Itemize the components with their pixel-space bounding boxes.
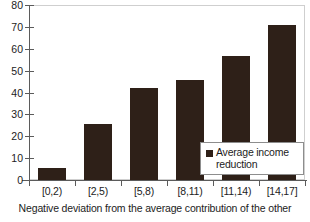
x-axis-line <box>22 180 307 181</box>
legend-swatch-icon <box>206 150 213 157</box>
y-axis-tick-label: 40 <box>0 88 23 99</box>
y-axis-tick <box>25 5 34 6</box>
legend-label: Average incomereduction <box>216 146 302 170</box>
y-axis-tick-label: 70 <box>0 22 23 33</box>
bar <box>130 88 158 180</box>
y-axis-tick-label: 60 <box>0 44 23 55</box>
y-axis-tick <box>25 158 34 159</box>
y-axis-tick <box>25 136 34 137</box>
x-axis-tick-label: [2,5) <box>75 186 121 197</box>
y-axis-tick <box>25 49 34 50</box>
figure-caption: Negative deviation from the average cont… <box>0 203 310 214</box>
bar-chart-figure: 80706050403020100 [0,2)[2,5)[5,8)[8,11)[… <box>0 0 310 222</box>
y-axis-tick-label: 10 <box>0 153 23 164</box>
y-axis-tick <box>25 71 34 72</box>
legend-label-line1: Average income <box>216 146 302 158</box>
x-axis-tick-label: [5,8) <box>121 186 167 197</box>
y-axis-tick <box>25 93 34 94</box>
x-axis-tick <box>305 181 306 186</box>
x-axis-tick-label: [0,2) <box>29 186 75 197</box>
bar <box>38 168 66 180</box>
x-axis-tick-label: [14,17] <box>259 186 305 197</box>
x-axis-tick-label: [11,14) <box>213 186 259 197</box>
legend-label-line2: reduction <box>216 158 302 170</box>
x-axis-tick-label: [8,11) <box>167 186 213 197</box>
y-axis-tick <box>25 27 34 28</box>
y-axis-tick-label: 50 <box>0 66 23 77</box>
y-axis-tick <box>25 114 34 115</box>
chart-legend: Average incomereduction <box>200 142 304 175</box>
y-axis-tick-label: 0 <box>0 175 23 186</box>
y-axis-tick-label: 20 <box>0 131 23 142</box>
bar <box>84 124 112 180</box>
y-axis-tick-label: 30 <box>0 109 23 120</box>
y-axis-tick-label: 80 <box>0 0 23 11</box>
